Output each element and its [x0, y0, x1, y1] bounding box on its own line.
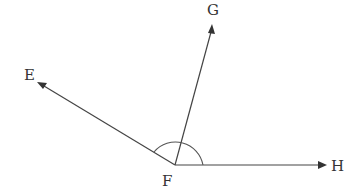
arrowhead-g-icon [208, 24, 215, 34]
arrowhead-e-icon [37, 82, 47, 89]
angle-diagram: E G H F [0, 0, 357, 190]
ray-fe [44, 86, 175, 165]
arrowhead-h-icon [318, 161, 327, 169]
ray-fg [175, 32, 211, 165]
label-f: F [162, 172, 172, 190]
label-e: E [24, 66, 35, 84]
label-g: G [207, 1, 219, 19]
label-h: H [331, 157, 344, 175]
